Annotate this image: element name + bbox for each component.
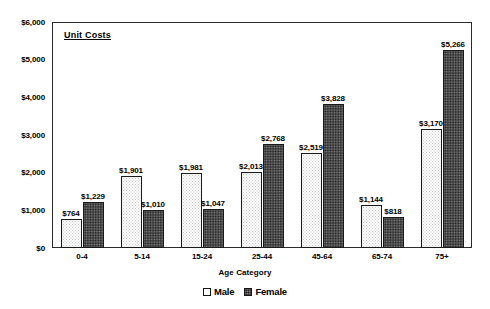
bar-female-75+[interactable]: $5,266 xyxy=(443,50,464,248)
x-axis: 0-45-1415-2425-4445-6465-7475+ xyxy=(52,252,472,266)
bar-male-65-74[interactable]: $1,144 xyxy=(361,205,382,248)
bar-female-65-74[interactable]: $818 xyxy=(383,217,404,248)
bar-male-5-14[interactable]: $1,901 xyxy=(121,176,142,248)
bar-male-15-24[interactable]: $1,981 xyxy=(181,173,202,248)
bar-female-0-4[interactable]: $1,229 xyxy=(83,202,104,248)
bar-male-75+[interactable]: $3,170 xyxy=(421,129,442,248)
y-tick-label: $5,000 xyxy=(21,55,45,64)
y-tick-label: $0 xyxy=(36,244,45,253)
chart-legend: Male Female xyxy=(0,286,490,297)
y-tick-label: $3,000 xyxy=(21,131,45,140)
bar-value-label: $1,229 xyxy=(81,192,105,201)
legend-item-male[interactable]: Male xyxy=(203,286,234,297)
x-tick-label: 15-24 xyxy=(192,252,212,261)
legend-item-female[interactable]: Female xyxy=(244,286,287,297)
bar-value-label: $2,013 xyxy=(239,162,263,171)
bar-male-0-4[interactable]: $764 xyxy=(61,219,82,248)
legend-label-female: Female xyxy=(255,286,287,297)
unit-costs-bar-chart: $6,000$5,000$4,000$3,000$2,000$1,000$0 U… xyxy=(0,0,490,309)
bar-group: $3,170$5,266 xyxy=(412,22,472,248)
bar-value-label: $1,047 xyxy=(201,199,225,208)
x-tick-label: 75+ xyxy=(435,252,448,261)
x-axis-title: Age Category xyxy=(0,268,490,277)
bar-group: $1,981$1,047 xyxy=(172,22,232,248)
bar-group: $2,013$2,768 xyxy=(232,22,292,248)
bar-female-5-14[interactable]: $1,010 xyxy=(143,210,164,248)
bar-male-25-44[interactable]: $2,013 xyxy=(241,172,262,248)
bar-female-45-64[interactable]: $3,828 xyxy=(323,104,344,248)
bars-layer: $764$1,229$1,901$1,010$1,981$1,047$2,013… xyxy=(52,22,472,248)
bar-value-label: $764 xyxy=(62,209,79,218)
y-tick-label: $2,000 xyxy=(21,168,45,177)
bar-group: $2,519$3,828 xyxy=(292,22,352,248)
y-tick-label: $4,000 xyxy=(21,93,45,102)
bar-female-15-24[interactable]: $1,047 xyxy=(203,209,224,248)
bar-value-label: $3,170 xyxy=(419,119,443,128)
bar-value-label: $5,266 xyxy=(441,40,465,49)
x-tick-label: 0-4 xyxy=(76,252,87,261)
bar-value-label: $3,828 xyxy=(321,94,345,103)
legend-label-male: Male xyxy=(214,286,234,297)
bar-value-label: $818 xyxy=(384,207,401,216)
bar-value-label: $1,981 xyxy=(179,163,203,172)
x-tick-label: 25-44 xyxy=(252,252,272,261)
x-tick-label: 5-14 xyxy=(134,252,150,261)
bar-group: $1,144$818 xyxy=(352,22,412,248)
y-axis: $6,000$5,000$4,000$3,000$2,000$1,000$0 xyxy=(0,0,48,309)
bar-male-45-64[interactable]: $2,519 xyxy=(301,153,322,248)
bar-group: $764$1,229 xyxy=(52,22,112,248)
female-swatch-icon xyxy=(244,288,252,296)
x-tick-label: 65-74 xyxy=(372,252,392,261)
bar-value-label: $2,768 xyxy=(261,134,285,143)
bar-value-label: $1,901 xyxy=(119,166,143,175)
bar-female-25-44[interactable]: $2,768 xyxy=(263,144,284,248)
y-tick-label: $6,000 xyxy=(21,18,45,27)
bar-group: $1,901$1,010 xyxy=(112,22,172,248)
y-tick-label: $1,000 xyxy=(21,206,45,215)
bar-value-label: $2,519 xyxy=(299,143,323,152)
male-swatch-icon xyxy=(203,288,211,296)
x-tick-label: 45-64 xyxy=(312,252,332,261)
bar-value-label: $1,144 xyxy=(359,195,383,204)
bar-value-label: $1,010 xyxy=(141,200,165,209)
